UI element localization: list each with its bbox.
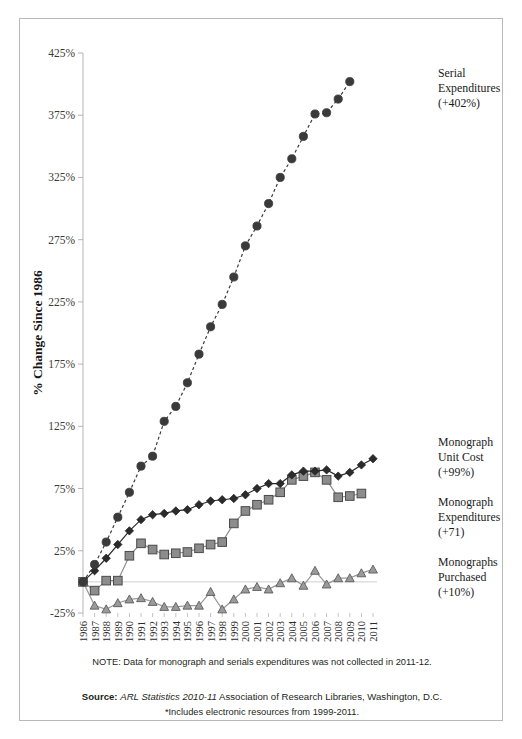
data-point-marker [264, 495, 273, 504]
data-point-marker [195, 544, 204, 553]
data-point-marker [230, 273, 238, 281]
x-tick-label: 2007 [322, 621, 333, 642]
data-point-marker [253, 500, 262, 509]
series-label-line: (+402%) [438, 96, 480, 110]
data-point-marker [206, 587, 215, 595]
data-point-marker [207, 323, 215, 331]
data-point-marker [195, 501, 203, 509]
data-point-marker [91, 560, 99, 568]
series-label-line: Expenditures [438, 81, 501, 95]
x-tick-label: 1986 [78, 621, 89, 642]
x-tick-label: 1999 [229, 621, 240, 642]
serial-label: SerialExpenditures(+402%) [438, 66, 501, 110]
x-tick-label: 1987 [90, 621, 101, 642]
data-point-marker [276, 173, 284, 181]
x-tick-label: 1989 [113, 621, 124, 642]
data-point-marker [334, 95, 342, 103]
data-point-marker [218, 300, 226, 308]
data-point-marker [114, 576, 123, 585]
x-tick-label: 1988 [101, 621, 112, 642]
data-point-marker [183, 548, 192, 557]
x-tick-label: 1995 [182, 621, 193, 642]
chart-frame: 425%375%325%275%225%175%125%75%25%-25%19… [19, 18, 503, 721]
mono-pur-label: MonographsPurchased(+10%) [438, 555, 498, 599]
y-tick-label: 175% [48, 358, 75, 370]
data-point-marker [322, 466, 330, 474]
y-tick-label: -25% [50, 607, 75, 619]
x-tick-label: 1998 [217, 621, 228, 642]
data-point-marker [102, 538, 110, 546]
data-point-marker [369, 565, 378, 573]
data-point-marker [148, 545, 157, 554]
chart-asterisk-note: *Includes electronic resources from 1999… [20, 707, 504, 717]
series-label-line: Purchased [438, 570, 487, 584]
data-point-marker [253, 222, 261, 230]
x-tick-label: 1993 [159, 621, 170, 642]
series-monograph-unit-cost [79, 454, 377, 586]
unit-cost-label: MonographUnit Cost(+99%) [438, 435, 493, 479]
data-point-marker [311, 566, 320, 574]
source-publisher: Association of Research Libraries, Washi… [219, 691, 442, 702]
data-point-marker [334, 493, 343, 502]
data-point-marker [195, 350, 203, 358]
data-point-marker [299, 132, 307, 140]
note-text: NOTE: Data for monograph and serials exp… [92, 657, 431, 667]
data-point-marker [276, 488, 285, 497]
y-tick-label: 75% [54, 483, 76, 495]
data-point-marker [183, 379, 191, 387]
chart-svg: 425%375%325%275%225%175%125%75%25%-25%19… [20, 19, 502, 659]
data-point-marker [323, 109, 331, 117]
series-serial-expenditures [79, 78, 354, 586]
data-point-marker [160, 550, 169, 559]
x-tick-label: 2004 [287, 620, 298, 642]
y-tick-label: 225% [48, 296, 75, 308]
data-point-marker [137, 594, 146, 602]
chart-note: NOTE: Data for monograph and serials exp… [20, 657, 504, 667]
data-point-marker [253, 484, 261, 492]
data-point-marker [322, 476, 331, 485]
x-tick-label: 1994 [171, 620, 182, 642]
x-tick-label: 2003 [275, 621, 286, 642]
series-label-line: Monograph [438, 495, 493, 509]
data-point-marker [125, 488, 133, 496]
data-point-marker [241, 491, 249, 499]
x-tick-label: 1996 [194, 621, 205, 642]
data-point-marker [79, 578, 87, 586]
data-point-marker [206, 497, 214, 505]
data-point-marker [287, 574, 296, 582]
data-point-marker [137, 539, 146, 548]
x-tick-label: 2002 [264, 621, 275, 642]
data-point-marker [265, 199, 273, 207]
data-point-marker [230, 519, 239, 528]
series-label-line: (+10%) [438, 585, 474, 599]
series-label-line: Serial [438, 66, 466, 80]
chart-plot-area: 425%375%325%275%225%175%125%75%25%-25%19… [20, 19, 502, 659]
source-title: ARL Statistics 2010-11 [120, 691, 217, 702]
data-point-marker [218, 496, 226, 504]
source-label: Source: [82, 691, 118, 702]
data-point-marker [346, 468, 354, 476]
data-point-marker [172, 549, 181, 558]
y-tick-label: 125% [48, 420, 75, 432]
series-label-line: Unit Cost [438, 450, 484, 464]
x-tick-label: 2001 [252, 621, 263, 642]
y-tick-label: 275% [48, 234, 75, 246]
mono-exp-label: MonographExpenditures(+71) [438, 495, 501, 539]
series-line [83, 82, 350, 582]
data-point-marker [241, 507, 250, 516]
x-tick-label: 2009 [345, 621, 356, 642]
x-tick-label: 2006 [310, 621, 321, 642]
series-label-line: (+71) [438, 525, 464, 539]
x-tick-label: 1997 [206, 621, 217, 642]
data-point-marker [102, 576, 111, 585]
data-point-marker [264, 479, 272, 487]
y-tick-label: 325% [48, 171, 75, 183]
series-label-line: Monograph [438, 435, 493, 449]
data-point-marker [253, 582, 262, 590]
data-point-marker [137, 462, 145, 470]
series-monographs-purchased [79, 565, 378, 613]
data-point-marker [311, 110, 319, 118]
y-axis-title: % Change Since 1986 [30, 270, 45, 396]
data-point-marker [288, 155, 296, 163]
asterisk-text: *Includes electronic resources from 1999… [165, 707, 359, 717]
